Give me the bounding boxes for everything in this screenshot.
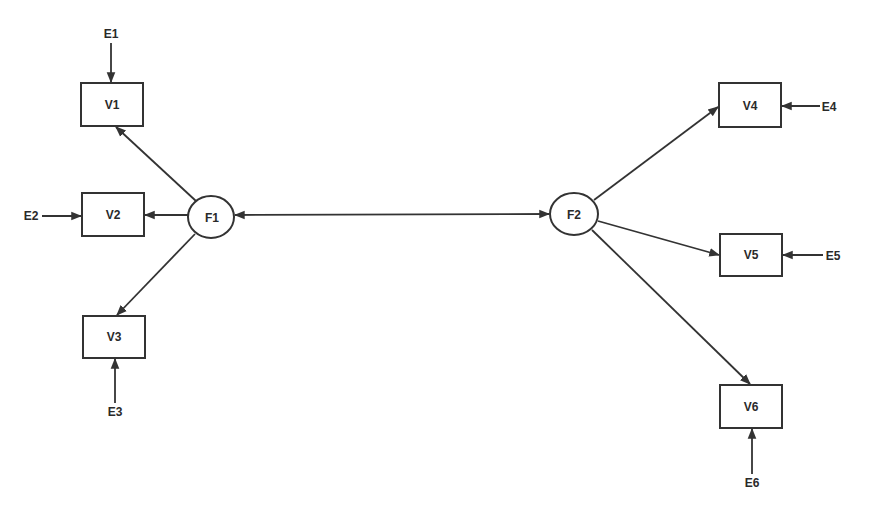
node-v4-label: V4 (743, 99, 758, 113)
node-v6: V6 (720, 385, 782, 428)
path-f2-v4 (594, 107, 718, 200)
error-e5-label: E5 (826, 249, 841, 263)
path-f1-f2-covariance (235, 214, 549, 215)
error-e3-label: E3 (108, 405, 123, 419)
path-f1-v1 (116, 127, 196, 201)
node-v5: V5 (720, 234, 782, 276)
error-e4-label: E4 (822, 100, 837, 114)
node-v4: V4 (719, 83, 781, 127)
node-f2-label: F2 (567, 208, 581, 222)
node-f1: F1 (188, 196, 234, 238)
node-v2: V2 (82, 193, 144, 236)
sem-diagram: V1 V2 V3 V4 V5 V6 F1 F2 E1 E2 E3 E4 E5 E… (0, 0, 871, 519)
node-v6-label: V6 (744, 400, 759, 414)
node-v3: V3 (83, 316, 145, 358)
error-e2-label: E2 (24, 209, 39, 223)
error-e6-label: E6 (745, 476, 760, 490)
node-v1: V1 (81, 83, 143, 126)
node-v3-label: V3 (107, 330, 122, 344)
path-f1-v3 (117, 234, 195, 315)
node-v1-label: V1 (105, 98, 120, 112)
node-v5-label: V5 (744, 248, 759, 262)
node-v2-label: V2 (106, 208, 121, 222)
path-f2-v5 (598, 221, 719, 255)
node-f2: F2 (550, 193, 598, 235)
error-e1-label: E1 (104, 27, 119, 41)
node-f1-label: F1 (205, 211, 219, 225)
